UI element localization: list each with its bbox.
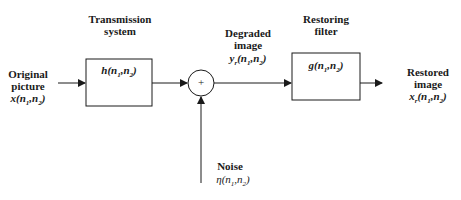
output-label: Restored image	[398, 66, 458, 90]
transmission-function: h(n1,n2)	[86, 64, 152, 79]
filter-caption: Restoring filter	[290, 13, 362, 37]
input-label: Original picture	[0, 68, 56, 92]
output-signal: xr(n1,n2)	[398, 90, 458, 105]
input-signal: x(n1,n2)	[0, 92, 56, 107]
noise-signal: η(n1,n2)	[210, 173, 256, 188]
filter-function: g(n1,n2)	[292, 59, 360, 74]
degraded-signal: yr(n1,n2)	[220, 52, 276, 67]
degraded-label: Degraded image	[220, 27, 276, 51]
sum-symbol: +	[196, 76, 206, 88]
transmission-caption: Transmission system	[80, 13, 160, 37]
noise-label: Noise	[210, 160, 250, 172]
